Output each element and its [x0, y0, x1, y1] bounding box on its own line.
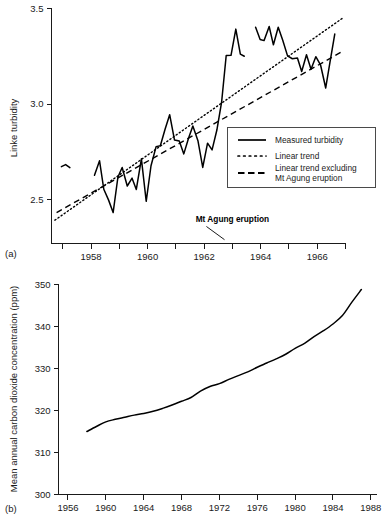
scientific-figure: 2.53.03.5 19581960196219641966 Mt Agung … — [0, 0, 382, 521]
panel-b-x-tick-label: 1976 — [247, 502, 268, 513]
panel-a-x-tick-labels: 19581960196219641966 — [81, 251, 328, 262]
panel-b-x-tick-label: 1972 — [209, 502, 230, 513]
panel-b-y-tick-label: 340 — [35, 321, 51, 332]
panel-b-y-tick-label: 310 — [35, 447, 51, 458]
panel-a-x-ticks — [63, 244, 346, 249]
panel-a-y-ticks — [47, 9, 52, 200]
mt-agung-eruption-annotation: Mt Agung eruption — [196, 214, 269, 224]
legend-label-linear-trend: Linear trend — [275, 151, 320, 161]
legend-label-linear-trend-excluding-line1: Linear trend excluding — [275, 163, 357, 173]
panel-b-y-tick-label: 330 — [35, 363, 51, 374]
legend-label-measured-turbidity: Measured turbidity — [275, 135, 344, 145]
panel-a-x-tick-label: 1962 — [194, 251, 215, 262]
panel-b-x-tick-label: 1960 — [95, 502, 116, 513]
panel-b-x-tick-label: 1988 — [360, 502, 381, 513]
panel-a-turbidity-chart: 2.53.03.5 19581960196219641966 Mt Agung … — [0, 0, 382, 272]
panel-a-x-tick-label: 1966 — [307, 251, 328, 262]
panel-a-measured-turbidity-segment — [61, 165, 69, 168]
panel-b-co2-line — [87, 290, 361, 432]
panel-b-x-tick-labels: 195619601964196819721976198019841988 — [57, 502, 381, 513]
panel-b-x-ticks — [68, 495, 371, 500]
panel-b-y-ticks — [54, 285, 59, 495]
panel-a-y-tick-label: 3.0 — [30, 98, 43, 109]
panel-b-label: (b) — [5, 503, 17, 514]
panel-a-x-tick-label: 1960 — [137, 251, 158, 262]
panel-a-y-tick-label: 3.5 — [30, 3, 43, 14]
mt-agung-eruption-leader-line — [206, 226, 224, 239]
panel-b-co2-chart: 300310320330340350 195619601964196819721… — [0, 272, 382, 521]
panel-b-y-axis-title: Mean annual carbon dioxide concentration… — [8, 286, 19, 493]
panel-b-y-tick-label: 350 — [35, 279, 51, 290]
panel-b-y-tick-label: 320 — [35, 405, 51, 416]
panel-a-legend: Measured turbidity Linear trend Linear t… — [228, 128, 376, 188]
panel-b-x-tick-label: 1980 — [285, 502, 306, 513]
panel-b-y-tick-label: 300 — [35, 489, 51, 500]
panel-a-x-tick-label: 1964 — [250, 251, 271, 262]
panel-b-y-tick-labels: 300310320330340350 — [35, 279, 51, 500]
legend-label-linear-trend-excluding-line2: Mt Agung eruption — [275, 173, 343, 183]
panel-b-x-tick-label: 1956 — [57, 502, 78, 513]
panel-b-x-tick-label: 1968 — [171, 502, 192, 513]
panel-b-x-tick-label: 1984 — [322, 502, 343, 513]
panel-b-x-tick-label: 1964 — [133, 502, 154, 513]
panel-a-measured-turbidity-segment — [94, 29, 244, 212]
panel-a-y-axis-title: Linke turbidity — [8, 98, 19, 157]
panel-a-y-tick-label: 2.5 — [30, 194, 43, 205]
panel-a-y-tick-labels: 2.53.03.5 — [30, 3, 43, 205]
panel-a-label: (a) — [5, 248, 17, 259]
panel-a-x-tick-label: 1958 — [81, 251, 102, 262]
panel-a-linear-trend-line — [55, 17, 344, 220]
